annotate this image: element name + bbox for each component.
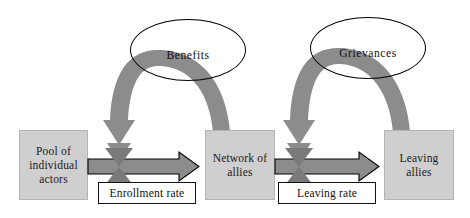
flow-enrollment-arrow (88, 152, 199, 181)
variable-benefits-label: Benefits (166, 49, 209, 61)
rate-label-enrollment-text: Enrollment rate (110, 187, 185, 199)
diagram-canvas: Pool of individual actors Network of all… (0, 0, 470, 218)
variable-grievances-label: Grievances (339, 47, 397, 59)
variable-grievances[interactable]: Grievances (310, 17, 426, 79)
flow-leaving-arrow (275, 152, 379, 181)
variable-benefits[interactable]: Benefits (130, 19, 246, 81)
rate-label-enrollment[interactable]: Enrollment rate (98, 182, 196, 204)
rate-label-leaving-text: Leaving rate (297, 187, 357, 199)
flow-leaving[interactable] (275, 148, 379, 185)
flow-enrollment[interactable] (88, 148, 199, 185)
rate-label-leaving[interactable]: Leaving rate (278, 182, 376, 204)
